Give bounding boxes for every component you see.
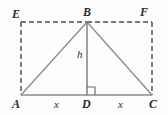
vertex-label-b: B xyxy=(83,6,91,18)
vertex-label-e: E xyxy=(12,8,20,20)
right-angle-marker-icon xyxy=(87,87,95,95)
vertex-label-c: C xyxy=(149,98,157,110)
vertex-label-d: D xyxy=(82,98,91,110)
triangle-right-leg-segment xyxy=(87,22,152,95)
base-segment-label-right-x: x xyxy=(118,99,123,110)
altitude-label-h: h xyxy=(77,49,83,60)
vertex-label-a: A xyxy=(12,98,20,110)
vertex-label-f: F xyxy=(140,6,148,18)
geometry-figure: E B F A D C h x x xyxy=(0,0,168,115)
base-segment-label-left-x: x xyxy=(54,99,59,110)
